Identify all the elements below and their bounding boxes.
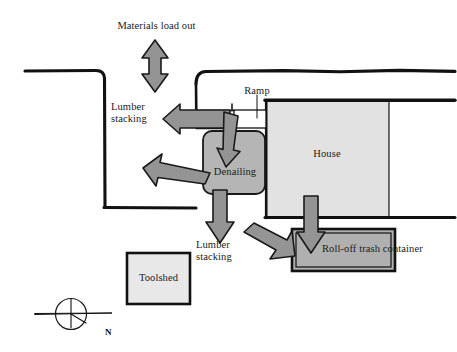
ramp-label: Ramp [233,85,281,97]
materials-load-out-arrow [142,40,168,92]
lumber-stacking-left-label-line2: stacking [111,113,175,125]
house-structure [265,100,455,218]
lumber-stacking-left-label-line1: Lumber [111,101,171,113]
compass-rose [35,299,112,330]
compass-north-label: N [105,327,112,337]
toolshed-label: Toolshed [128,272,189,284]
house-label: House [296,148,358,160]
denailing-to-lumber-stacking-down-arrow [206,190,234,243]
lumber-stacking-bottom-label-line1: Lumber [196,239,256,251]
materials-load-out-label: Materials load out [79,20,234,32]
lumber-stacking-bottom-label-line2: stacking [196,251,260,263]
denailing-to-lumber-stacking-diagonal-arrow [143,154,210,186]
roll-off-trash-container-label: Roll-off trash container [322,243,457,255]
site-plan-diagram: .ink { stroke:#111111; fill:none; stroke… [0,0,457,352]
denailing-label: Denailing [204,166,266,178]
lumber-stacking-yard-boundary [25,71,196,209]
